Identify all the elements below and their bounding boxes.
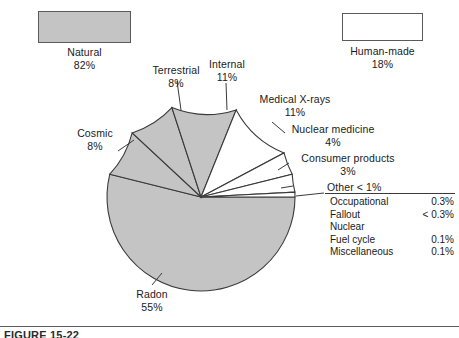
figure-divider	[0, 326, 459, 327]
callout-nuclear-medicine-label: Nuclear medicine	[292, 123, 375, 135]
callout-internal-label: Internal	[209, 58, 245, 70]
other-row-miscellaneous-value: 0.1%	[406, 246, 454, 259]
callout-radon-percent: 55%	[120, 301, 184, 314]
other-table-rule	[325, 193, 455, 194]
other-breakdown-table: Occupational 0.3% Fallout < 0.3% Nuclear…	[330, 196, 454, 259]
callout-nuclear-medicine: Nuclear medicine 4%	[273, 123, 393, 148]
table-row: Miscellaneous 0.1%	[330, 246, 454, 259]
figure-caption: FIGURE 15-22	[4, 329, 79, 338]
callout-other: Other < 1%	[327, 181, 437, 194]
other-row-fuel-cycle-label: Fuel cycle	[330, 234, 406, 247]
callout-other-label: Other < 1%	[327, 181, 381, 193]
other-row-nuclear-label: Nuclear	[330, 221, 406, 234]
leader-other	[296, 193, 324, 196]
callout-nuclear-medicine-percent: 4%	[273, 136, 393, 149]
callout-medical-xrays-percent: 11%	[243, 106, 347, 119]
leader-internal	[226, 83, 227, 110]
table-row: Occupational 0.3%	[330, 196, 454, 209]
other-row-occupational-label: Occupational	[330, 196, 406, 209]
callout-cosmic-label: Cosmic	[77, 127, 113, 139]
callout-consumer-products: Consumer products 3%	[285, 152, 411, 177]
table-row: Nuclear	[330, 221, 454, 234]
callout-medical-xrays: Medical X-rays 11%	[243, 93, 347, 118]
other-row-fuel-cycle-value: 0.1%	[406, 234, 454, 247]
callout-consumer-products-percent: 3%	[285, 165, 411, 178]
radiation-dose-pie-figure: Natural 82% Human-made 18%	[0, 0, 459, 338]
other-row-fallout-value: < 0.3%	[406, 209, 454, 222]
callout-radon-label: Radon	[136, 288, 167, 300]
other-row-miscellaneous-label: Miscellaneous	[330, 246, 406, 259]
callout-cosmic: Cosmic 8%	[65, 127, 125, 152]
table-row: Fuel cycle 0.1%	[330, 234, 454, 247]
callout-radon: Radon 55%	[120, 288, 184, 313]
callout-medical-xrays-label: Medical X-rays	[260, 93, 331, 105]
other-row-fallout-label: Fallout	[330, 209, 406, 222]
callout-cosmic-percent: 8%	[65, 140, 125, 153]
callout-consumer-products-label: Consumer products	[301, 152, 394, 164]
table-row: Fallout < 0.3%	[330, 209, 454, 222]
other-row-occupational-value: 0.3%	[406, 196, 454, 209]
callout-terrestrial-label: Terrestrial	[152, 64, 199, 76]
callout-internal-percent: 11%	[196, 71, 258, 84]
other-row-nuclear-value	[406, 221, 454, 234]
callout-internal: Internal 11%	[196, 58, 258, 83]
